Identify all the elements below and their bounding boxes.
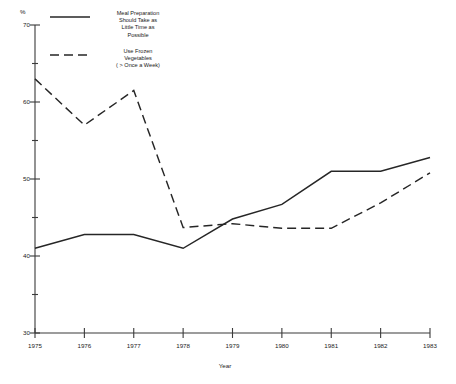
chart-container: % 3040506070 197519761977197819791980198… — [0, 0, 456, 384]
y-tick-label: 50 — [12, 175, 30, 182]
y-tick-label: 70 — [12, 21, 30, 28]
x-axis-title: Year — [195, 362, 255, 369]
x-tick-label: 1978 — [169, 342, 197, 349]
x-tick-label: 1977 — [120, 342, 148, 349]
x-tick-label: 1983 — [416, 342, 444, 349]
series-line-meal-preparation — [35, 157, 430, 248]
x-tick-label: 1976 — [70, 342, 98, 349]
series-group — [35, 79, 430, 248]
x-tick-label: 1982 — [367, 342, 395, 349]
legend-label-frozen-vegetables: Use Frozen Vegetables ( > Once a Week) — [95, 48, 181, 70]
series-line-frozen-vegetables — [35, 79, 430, 228]
x-tick-label: 1975 — [21, 342, 49, 349]
y-tick-label: 60 — [12, 98, 30, 105]
x-tick-label: 1979 — [219, 342, 247, 349]
x-tick-label: 1980 — [268, 342, 296, 349]
chart-plot-area — [0, 0, 456, 384]
legend-swatch-group — [50, 17, 90, 55]
y-axis-unit-label: % — [20, 8, 26, 15]
axes-group — [35, 25, 430, 333]
y-tick-label: 30 — [12, 329, 30, 336]
x-tick-label: 1981 — [317, 342, 345, 349]
legend-label-meal-preparation: Meal Preparation Should Take as Little T… — [95, 10, 181, 39]
y-tick-label: 40 — [12, 252, 30, 259]
